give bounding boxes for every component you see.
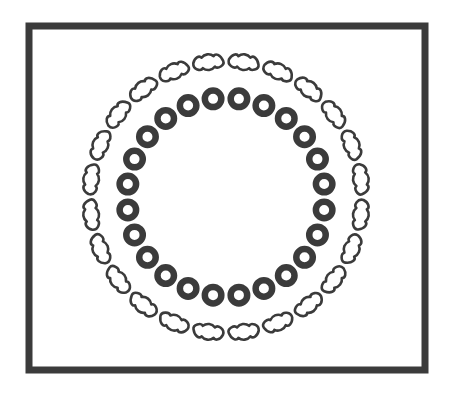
ring-diagram-svg <box>0 0 457 394</box>
rectangular-border <box>29 26 425 370</box>
figure-canvas <box>0 0 457 394</box>
